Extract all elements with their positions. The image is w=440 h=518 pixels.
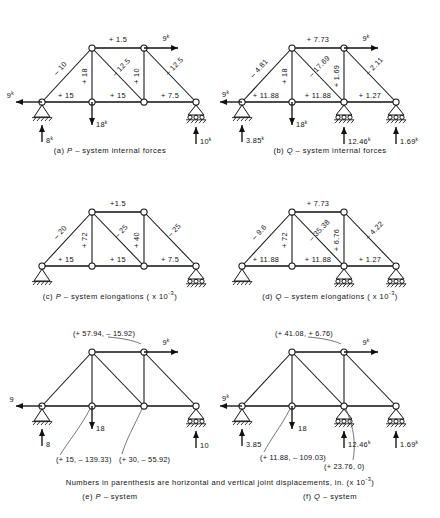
node-5 xyxy=(89,45,95,51)
label-bottom-right: + 1.27 xyxy=(359,91,382,100)
node-6 xyxy=(341,209,347,215)
label-bottom-right: + 7.5 xyxy=(161,91,179,100)
caption-d-text: – system elongations ( x 10 xyxy=(284,292,389,301)
support-roller-right xyxy=(386,269,406,287)
node-3 xyxy=(141,99,147,105)
load-arrow-mid-down xyxy=(89,102,95,125)
member-middle-diagonal xyxy=(292,352,344,406)
node-5 xyxy=(89,209,95,215)
label-center-vertical: + 18 xyxy=(80,68,89,84)
leader-mid-displacement xyxy=(60,409,90,455)
figure-note-text: Numbers in parenthesis are horizontal an… xyxy=(66,478,366,487)
label-displacement-top-left: (+ 57.94, – 15.92) xyxy=(73,329,135,338)
reaction-arrow-left xyxy=(239,429,245,446)
truss-diagram-f: (+ 41.08, + 6.76) (+ 11.88, – 109.03) (+… xyxy=(220,310,440,470)
label-left-diagonal: – 9.6 xyxy=(250,223,269,242)
label-top-chord: + 7.73 xyxy=(307,199,330,208)
node-4 xyxy=(393,263,399,269)
reaction-arrow-left xyxy=(39,125,45,142)
label-bottom-left: + 15 xyxy=(58,91,74,100)
label-displacement-top-left: (+ 41.08, + 6.76) xyxy=(275,329,333,338)
reaction-arrow-right xyxy=(193,431,199,448)
label-bottom-right: + 7.5 xyxy=(161,255,179,264)
leader-top-left-displacement xyxy=(308,337,341,344)
support-pin-left xyxy=(32,409,52,425)
label-right-vertical: + 6.76 xyxy=(332,229,341,252)
node-4 xyxy=(193,263,199,269)
label-load-left-horizontal: 9k xyxy=(222,89,229,99)
label-top-chord: + 1.5 xyxy=(109,35,127,44)
label-right-diagonal: – 2.11 xyxy=(363,55,385,77)
label-right-vertical: + 10 xyxy=(132,68,141,84)
label-center-vertical: + 18 xyxy=(280,68,289,84)
label-load-top-right: 9k xyxy=(362,33,369,43)
node-3 xyxy=(141,403,147,409)
node-5 xyxy=(89,349,95,355)
label-middle-diagonal: – 25 xyxy=(113,223,130,240)
load-arrow-mid-down xyxy=(289,102,295,125)
caption-panel-b: (b) Q – system internal forces xyxy=(220,146,440,155)
member-right-diagonal xyxy=(344,352,396,406)
support-roller-mid xyxy=(334,269,354,287)
member-middle-diagonal xyxy=(92,352,144,406)
caption-c-system: P xyxy=(56,292,62,301)
node-5 xyxy=(289,349,295,355)
caption-panel-c: (c) P – system elongations ( x 10-3) xyxy=(0,290,220,301)
label-displacement-bottom-mid: (+ 15, – 139.33) xyxy=(56,455,112,464)
node-3 xyxy=(341,263,347,269)
label-displacement-bottom-third: (+ 30, – 55.92) xyxy=(119,455,170,464)
label-load-mid-down: 18 xyxy=(96,424,105,433)
support-roller-right xyxy=(186,105,206,123)
label-bottom-right: + 1.27 xyxy=(359,255,382,264)
label-bottom-mid: + 15 xyxy=(110,91,126,100)
label-reaction-right: 1.69k xyxy=(400,439,419,449)
label-bottom-left: + 11.88 xyxy=(253,91,279,100)
node-6 xyxy=(141,209,147,215)
label-load-left-horizontal: 9 xyxy=(10,395,14,404)
node-5 xyxy=(289,209,295,215)
label-load-left-horizontal: 9k xyxy=(222,393,229,403)
label-bottom-left: + 11.88 xyxy=(253,255,279,264)
caption-f-id: (f) xyxy=(303,492,312,501)
leader-mid-displacement xyxy=(264,409,290,452)
label-right-diagonal: – 12.5 xyxy=(163,55,185,77)
label-load-left-horizontal: 9k xyxy=(7,90,14,100)
caption-d-id: (d) xyxy=(262,292,273,301)
label-right-diagonal: – 4.22 xyxy=(363,219,385,241)
label-left-diagonal: – 20 xyxy=(52,224,69,242)
truss-diagram-d: + 7.73 – 9.6 + 72 – 35.38 + 6.76 – 4.22 … xyxy=(220,170,440,290)
reaction-arrow-right xyxy=(393,127,399,144)
label-reaction-mid: 12.46k xyxy=(348,136,371,146)
node-3 xyxy=(341,403,347,409)
support-pin-left xyxy=(232,269,252,285)
node-4 xyxy=(193,99,199,105)
caption-a-text: – system internal forces xyxy=(75,146,166,155)
caption-c-id: (c) xyxy=(43,292,53,301)
leader-top-left-displacement xyxy=(108,337,141,344)
figure-sheet: + 1.5 – 10 + 18 – 12.5 + 10 – 12.5 + 15 … xyxy=(0,0,440,518)
label-reaction-right: 1.69k xyxy=(400,136,419,146)
label-middle-diagonal: – 17.69 xyxy=(307,54,332,80)
label-load-top-right: 9k xyxy=(162,33,169,43)
member-left-diagonal xyxy=(42,352,92,406)
node-4 xyxy=(393,403,399,409)
node-2 xyxy=(289,263,295,269)
caption-panel-e: (e) P – system xyxy=(0,492,220,501)
label-reaction-left: 8 xyxy=(46,440,50,449)
caption-b-text: – system internal forces xyxy=(296,146,387,155)
caption-b-system: Q xyxy=(287,146,293,155)
truss-diagram-a: + 1.5 – 10 + 18 – 12.5 + 10 – 12.5 + 15 … xyxy=(0,6,220,146)
load-arrow-top-right xyxy=(144,349,178,355)
label-bottom-mid: + 11.88 xyxy=(305,91,331,100)
label-center-vertical: + 72 xyxy=(80,232,89,248)
support-roller-right xyxy=(386,409,406,427)
node-4 xyxy=(393,99,399,105)
label-top-chord: +1.5 xyxy=(110,199,126,208)
reaction-arrow-left xyxy=(239,125,245,142)
label-bottom-left: + 15 xyxy=(58,255,74,264)
reaction-arrow-mid xyxy=(341,127,347,144)
leader-third-displacement xyxy=(122,409,142,454)
truss-diagram-c: +1.5 – 20 + 72 – 25 + 40 – 25 + 15 + 15 … xyxy=(0,170,220,290)
reaction-arrow-left xyxy=(39,429,45,446)
load-arrow-top-right xyxy=(344,45,378,51)
